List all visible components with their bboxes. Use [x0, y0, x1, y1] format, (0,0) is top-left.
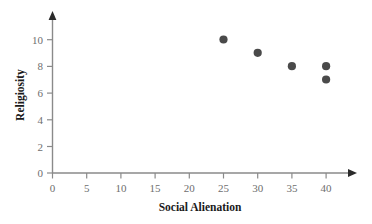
x-tick-label: 5: [84, 182, 90, 194]
scatter-plot-figure: 0 2 4 6 8 10 0 5 10 15 20 25 30: [0, 0, 372, 224]
plot-canvas: 0 2 4 6 8 10 0 5 10 15 20 25 30: [0, 0, 372, 224]
x-tick-marks: [53, 173, 327, 179]
x-tick-label: 10: [115, 182, 127, 194]
y-axis-arrowhead: [49, 11, 57, 20]
data-points-group: [219, 35, 330, 83]
x-tick-labels: 0 5 10 15 20 25 30 35 40: [50, 182, 332, 194]
y-axis-title: Religiosity: [14, 69, 27, 121]
x-axis-title: Social Alienation: [159, 201, 242, 213]
x-tick-label: 40: [321, 182, 333, 194]
data-point: [288, 62, 296, 70]
y-tick-label: 0: [38, 167, 44, 179]
y-tick-label: 2: [38, 141, 44, 153]
data-point: [322, 62, 330, 70]
data-point: [219, 35, 227, 43]
x-tick-label: 25: [218, 182, 230, 194]
y-tick-label: 10: [32, 34, 44, 46]
y-tick-label: 8: [38, 60, 44, 72]
x-tick-label: 35: [286, 182, 298, 194]
data-point: [322, 75, 330, 83]
x-tick-label: 20: [184, 182, 196, 194]
x-tick-label: 0: [50, 182, 56, 194]
y-tick-marks: [47, 40, 53, 173]
data-point: [254, 49, 262, 57]
y-tick-labels: 0 2 4 6 8 10: [32, 34, 44, 179]
x-tick-label: 15: [150, 182, 162, 194]
y-tick-label: 6: [38, 87, 44, 99]
x-axis-arrowhead: [348, 169, 357, 177]
x-tick-label: 30: [252, 182, 264, 194]
y-tick-label: 4: [38, 114, 44, 126]
axes-group: [49, 11, 357, 177]
